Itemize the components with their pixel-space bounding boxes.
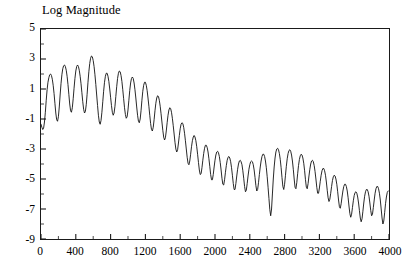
plot-area xyxy=(40,28,390,240)
spectrum-line xyxy=(41,56,388,224)
spectrum-plot-svg xyxy=(41,29,389,239)
x-tick-label: 4000 xyxy=(367,246,413,258)
spectrum-figure: Log Magnitude Hz 531-1-3-5-7-9 040080012… xyxy=(0,0,413,278)
